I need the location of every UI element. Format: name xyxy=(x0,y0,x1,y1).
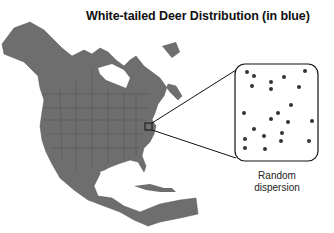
deer-dot xyxy=(245,70,249,74)
deer-dot xyxy=(307,139,311,143)
deer-dot xyxy=(252,127,256,131)
deer-dot xyxy=(286,120,290,124)
page-title: White-tailed Deer Distribution (in blue) xyxy=(86,9,310,23)
greenland-edge xyxy=(162,42,180,58)
deer-dot xyxy=(243,137,247,141)
deer-dot xyxy=(243,146,247,150)
deer-dot xyxy=(262,134,266,138)
deer-dot xyxy=(269,117,273,121)
deer-dot xyxy=(263,147,267,151)
deer-dot xyxy=(242,111,246,115)
north-america-map xyxy=(0,0,334,233)
deer-dot xyxy=(310,119,314,123)
caption-line-1: Random xyxy=(244,170,310,182)
deer-dot xyxy=(280,131,284,135)
deer-dot xyxy=(297,85,301,89)
deer-dot xyxy=(289,103,293,107)
deer-dot xyxy=(252,74,256,78)
caribbean-islands xyxy=(134,184,176,192)
deer-dot xyxy=(269,87,273,91)
caption-line-2: dispersion xyxy=(244,182,310,194)
connector-line-top xyxy=(152,70,236,123)
deer-dot xyxy=(282,75,286,79)
connector-line-bottom xyxy=(152,130,236,158)
inset-caption: Random dispersion xyxy=(244,170,310,194)
deer-dot xyxy=(279,139,283,143)
deer-dot xyxy=(269,80,273,84)
deer-dot xyxy=(276,111,280,115)
deer-dot xyxy=(303,69,307,73)
deer-dot xyxy=(250,84,254,88)
